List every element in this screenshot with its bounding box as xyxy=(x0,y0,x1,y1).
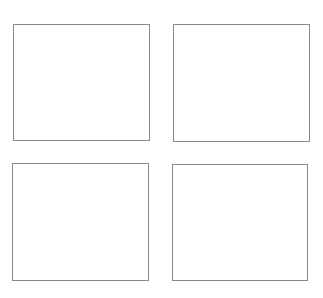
panel-top-right xyxy=(173,24,310,142)
panel-bottom-right xyxy=(172,164,308,281)
panel-top-left xyxy=(13,24,150,141)
panel-bottom-left xyxy=(12,163,149,281)
